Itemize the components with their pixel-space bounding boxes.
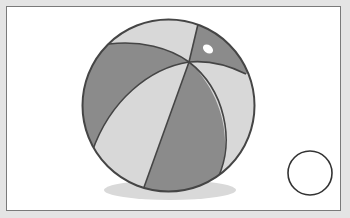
beach-ball-illustration (0, 0, 350, 218)
beach-ball (60, 10, 270, 200)
answer-circle[interactable] (288, 151, 332, 195)
